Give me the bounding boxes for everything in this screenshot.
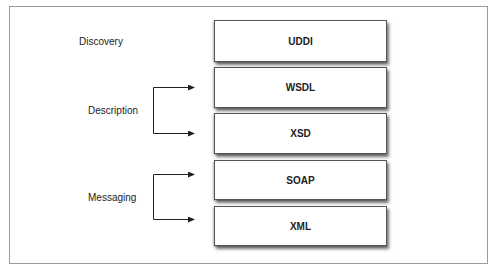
layer-uddi-label: UDDI xyxy=(288,36,312,47)
layer-wsdl: WSDL xyxy=(214,67,387,108)
layer-xml: XML xyxy=(214,206,387,246)
layer-soap-label: SOAP xyxy=(286,175,314,186)
layer-xsd-label: XSD xyxy=(290,128,311,139)
messaging-bracket xyxy=(154,175,195,220)
layer-wsdl-label: WSDL xyxy=(286,82,315,93)
layer-xml-label: XML xyxy=(290,221,311,232)
layer-soap: SOAP xyxy=(214,160,387,200)
layer-uddi: UDDI xyxy=(214,20,387,62)
layer-xsd: XSD xyxy=(214,113,387,154)
description-bracket xyxy=(154,88,195,134)
